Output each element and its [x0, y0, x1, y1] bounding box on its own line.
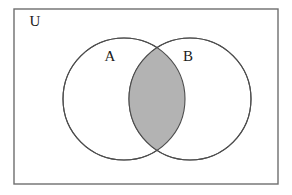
- set-a-label: A: [105, 48, 116, 64]
- venn-diagram-figure: U A B: [0, 0, 292, 195]
- set-b-label: B: [183, 48, 193, 64]
- venn-diagram-canvas: U A B: [0, 0, 292, 195]
- universal-set-label: U: [30, 13, 41, 29]
